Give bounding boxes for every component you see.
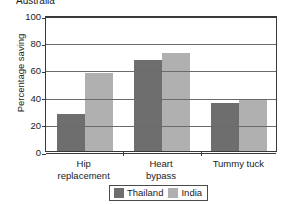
y-tick-label: 80 (30, 38, 41, 50)
y-tick-label: 40 (30, 93, 41, 105)
legend-item-thailand: Thailand (114, 187, 163, 198)
chart-legend: Thailand India (109, 185, 208, 201)
y-axis-label: Percentage saving (16, 8, 26, 138)
y-gridline: 20 (46, 126, 276, 127)
y-tick-label: 20 (30, 120, 41, 132)
y-tick-mark (42, 99, 46, 100)
x-category-label: Hipreplacement (45, 158, 122, 181)
y-tick-label: 100 (25, 11, 41, 23)
y-gridline: 0 (46, 153, 276, 154)
y-tick-label: 0 (36, 147, 41, 159)
legend-swatch-india (168, 188, 178, 198)
bar-india-0 (85, 73, 113, 151)
y-gridline: 100 (46, 17, 276, 18)
legend-swatch-thailand (114, 188, 124, 198)
y-gridline: 80 (46, 44, 276, 45)
y-tick-mark (42, 45, 46, 46)
plot-area: 020406080100 (45, 16, 277, 152)
y-tick-label: 60 (30, 65, 41, 77)
bar-india-1 (162, 53, 190, 151)
y-tick-mark (42, 126, 46, 127)
chart-title: Australia (16, 0, 55, 6)
bar-thailand-1 (134, 60, 162, 151)
x-tick-mark (201, 151, 202, 156)
x-category-label: Tummy tuck (200, 158, 277, 170)
x-category-line: bypass (122, 170, 199, 182)
legend-item-india: India (168, 187, 202, 198)
legend-label-india: India (181, 187, 202, 198)
legend-label-thailand: Thailand (127, 187, 163, 198)
bar-thailand-2 (211, 103, 239, 151)
x-category-label: Heartbypass (122, 158, 199, 181)
x-category-line: Heart (122, 158, 199, 170)
bars-layer (46, 17, 276, 151)
bar-thailand-0 (57, 114, 85, 151)
y-tick-mark (42, 72, 46, 73)
x-tick-mark (123, 151, 124, 156)
x-category-line: Tummy tuck (200, 158, 277, 170)
x-category-line: replacement (45, 170, 122, 182)
y-gridline: 60 (46, 71, 276, 72)
y-gridline: 40 (46, 99, 276, 100)
y-tick-mark (42, 18, 46, 19)
bar-chart: Australia Percentage saving 020406080100… (0, 0, 282, 204)
y-tick-mark (42, 154, 46, 155)
x-category-line: Hip (45, 158, 122, 170)
